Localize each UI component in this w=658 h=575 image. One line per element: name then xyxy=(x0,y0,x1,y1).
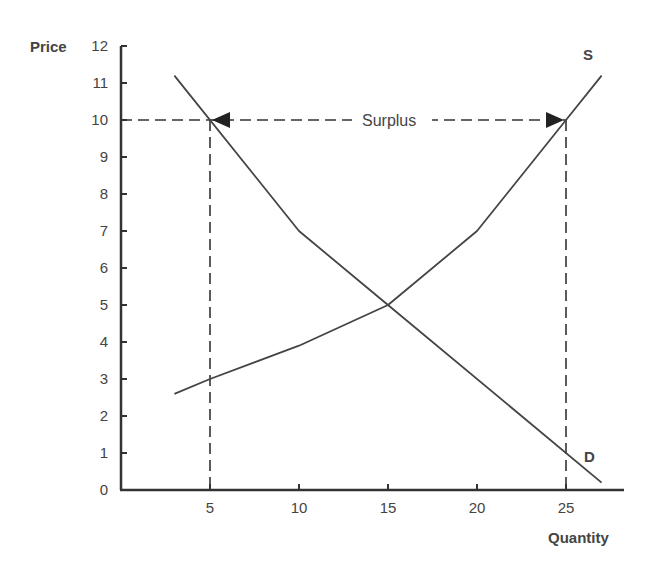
x-tick-label: 20 xyxy=(469,499,486,516)
demand-curve xyxy=(174,76,601,483)
y-tick-label: 3 xyxy=(100,370,108,387)
y-tick-label: 10 xyxy=(91,111,108,128)
x-tick-label: 15 xyxy=(380,499,397,516)
x-tick-label: 25 xyxy=(558,499,575,516)
y-tick-label: 11 xyxy=(92,74,108,91)
curves xyxy=(174,76,601,483)
surplus-guides xyxy=(121,120,566,490)
x-tick-label: 5 xyxy=(206,499,214,516)
y-tick-label: 5 xyxy=(100,296,108,313)
y-tick-label: 7 xyxy=(100,222,108,239)
supply-label: S xyxy=(583,46,593,63)
y-tick-label: 0 xyxy=(100,481,108,498)
y-tick-label: 12 xyxy=(91,37,108,54)
y-tick-label: 4 xyxy=(100,333,108,350)
supply-demand-chart: 0123456789101112510152025 Price Quantity… xyxy=(0,0,658,575)
y-axis-title: Price xyxy=(30,38,67,55)
y-tick-label: 1 xyxy=(100,444,108,461)
x-axis-title: Quantity xyxy=(548,529,609,546)
demand-label: D xyxy=(584,448,595,465)
y-tick-label: 6 xyxy=(100,259,108,276)
ticks: 0123456789101112510152025 xyxy=(91,37,574,516)
surplus-label: Surplus xyxy=(362,112,416,129)
y-tick-label: 2 xyxy=(100,407,108,424)
y-tick-label: 8 xyxy=(100,185,108,202)
x-tick-label: 10 xyxy=(291,499,308,516)
y-tick-label: 9 xyxy=(100,148,108,165)
